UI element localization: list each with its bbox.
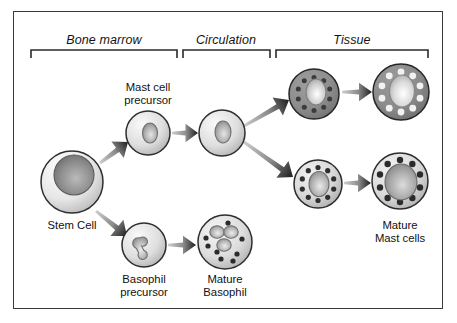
- cell-label-mature-basophil: MatureBasophil: [203, 273, 246, 298]
- section-header-tissue: Tissue: [333, 33, 370, 47]
- cells-layer: [41, 64, 429, 269]
- bracket-circulation: [183, 50, 270, 58]
- nucleus-mast-cell-precursor: [143, 123, 158, 143]
- arrow-mast-precursor-to-circulation: [172, 124, 198, 142]
- nucleus-stem-cell: [54, 155, 94, 195]
- nucleus-tissue-mast-cell-light: [309, 172, 329, 197]
- cell-tissue-mast-cell-light: [294, 160, 342, 208]
- arrow-tissue-light-to-mature-light: [344, 174, 371, 192]
- cell-label-mast-cell-precursor: Mast cellprecursor: [124, 81, 172, 106]
- cell-mature-mast-cell-dark: [373, 64, 429, 120]
- cell-basophil-precursor: [122, 223, 166, 267]
- cell-stem-cell: [41, 151, 103, 213]
- nucleus-circulating-mast-cell: [215, 121, 231, 143]
- arrow-basophil-precursor-to-mature: [168, 236, 196, 254]
- cell-tissue-mast-cell-dark: [289, 69, 339, 119]
- bracket-bone-marrow: [31, 50, 177, 58]
- nucleus-mature-mast-cell-dark: [390, 75, 415, 107]
- bracket-tissue: [276, 50, 428, 58]
- cell-label-basophil-precursor: Basophilprecursor: [120, 273, 168, 298]
- arrow-tissue-dark-to-mature-dark: [342, 83, 372, 101]
- section-header-circulation: Circulation: [196, 33, 256, 47]
- arrow-stem-to-basophil-precursor: [95, 210, 127, 236]
- cell-circulating-mast-cell: [199, 110, 245, 156]
- cell-mature-basophil: [198, 215, 252, 269]
- section-brackets-layer: [31, 50, 428, 58]
- nucleus-mature-mast-cell-light: [385, 164, 417, 200]
- section-header-bone-marrow: Bone marrow: [66, 33, 141, 47]
- arrow-stem-to-mast-precursor: [99, 142, 128, 165]
- cell-mast-cell-precursor: [126, 111, 170, 155]
- cell-label-mature-mast-cell-light: MatureMast cells: [375, 219, 425, 244]
- arrow-circulation-to-tissue-upper: [243, 98, 289, 128]
- arrow-circulation-to-tissue-lower: [243, 141, 293, 178]
- figure-root: Bone marrowCirculationTissue Stem CellMa…: [0, 0, 457, 323]
- nucleus-tissue-mast-cell-dark: [306, 79, 326, 105]
- cell-label-stem-cell: Stem Cell: [48, 219, 97, 232]
- cell-mature-mast-cell-light: [372, 153, 428, 209]
